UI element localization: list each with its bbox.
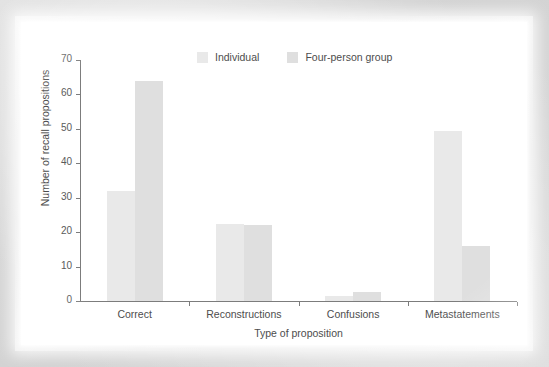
y-tick-label: 60 (61, 87, 72, 98)
y-tick-mark (76, 232, 80, 233)
legend-label: Four-person group (305, 51, 392, 63)
y-tick-20: 20 (76, 232, 80, 233)
y-tick-label: 30 (61, 191, 72, 202)
y-tick-label: 0 (66, 294, 72, 305)
x-category-label-reconstructions: Reconstructions (189, 308, 298, 320)
bar-metastatements-four-person-group (462, 246, 490, 301)
y-axis-line (80, 60, 81, 302)
bar-chart-plot: 010203040506070 CorrectReconstructionsCo… (21, 22, 527, 345)
x-tick-separator (299, 302, 300, 306)
y-axis-title: Number of recall propositions (39, 28, 51, 248)
figure-panel: 010203040506070 CorrectReconstructionsCo… (21, 22, 527, 345)
x-axis-title: Type of proposition (80, 327, 517, 339)
x-tick-separator (408, 302, 409, 306)
y-tick-mark (76, 129, 80, 130)
legend-item-individual: Individual (197, 51, 259, 63)
chart-legend: IndividualFour-person group (197, 51, 392, 63)
y-tick-label: 50 (61, 122, 72, 133)
y-tick-10: 10 (76, 267, 80, 268)
y-tick-60: 60 (76, 94, 80, 95)
scanned-page: 010203040506070 CorrectReconstructionsCo… (0, 0, 549, 367)
legend-swatch-icon (287, 52, 298, 63)
y-tick-mark (76, 163, 80, 164)
y-tick-50: 50 (76, 129, 80, 130)
y-tick-label: 10 (61, 260, 72, 271)
y-tick-mark (76, 267, 80, 268)
y-tick-label: 20 (61, 225, 72, 236)
y-tick-30: 30 (76, 198, 80, 199)
y-tick-mark (76, 60, 80, 61)
x-tick-separator (517, 302, 518, 306)
y-tick-label: 70 (61, 53, 72, 64)
x-category-label-metastatements: Metastatements (408, 308, 517, 320)
bar-metastatements-individual (434, 131, 462, 301)
x-category-label-correct: Correct (80, 308, 189, 320)
bar-reconstructions-four-person-group (244, 225, 272, 301)
y-tick-0: 0 (76, 301, 80, 302)
y-tick-40: 40 (76, 163, 80, 164)
y-tick-mark (76, 198, 80, 199)
bar-correct-four-person-group (135, 81, 163, 301)
y-tick-mark (76, 301, 80, 302)
x-tick-separator (189, 302, 190, 306)
y-tick-label: 40 (61, 156, 72, 167)
bar-confusions-individual (325, 296, 353, 301)
legend-label: Individual (215, 51, 259, 63)
legend-swatch-icon (197, 52, 208, 63)
y-tick-mark (76, 94, 80, 95)
bar-correct-individual (107, 191, 135, 301)
x-category-label-confusions: Confusions (299, 308, 408, 320)
legend-item-four-person-group: Four-person group (287, 51, 392, 63)
bar-confusions-four-person-group (353, 292, 381, 301)
bar-reconstructions-individual (216, 224, 244, 301)
y-tick-70: 70 (76, 60, 80, 61)
